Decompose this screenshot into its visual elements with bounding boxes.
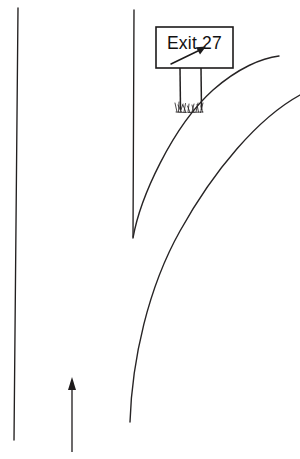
exit-sign-label: Exit 27 [167,33,222,53]
exit-ramp-inner-curve [133,56,279,238]
left-road-edge-line [14,8,18,440]
direction-arrow-head-icon [68,377,76,390]
travel-direction-arrow [68,377,76,452]
exit-ramp-outer-curve [130,95,300,422]
center-median-line [133,10,134,237]
sign-post-right [201,68,202,110]
diagram-canvas: Exit 27 [0,0,300,459]
exit-ramp-diagram: Exit 27 [0,0,300,459]
sign-post-left [180,68,181,110]
